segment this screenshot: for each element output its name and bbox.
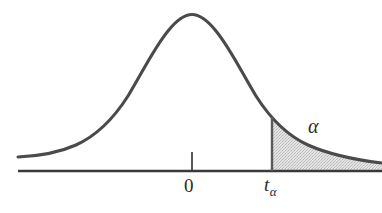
critical-value-label: tα xyxy=(264,175,277,198)
origin-label: 0 xyxy=(184,176,194,195)
t-distribution-figure: 0 tα α xyxy=(0,0,382,213)
tail-area-label: α xyxy=(308,116,319,136)
critical-value-symbol: t xyxy=(264,174,269,195)
critical-value-subscript: α xyxy=(270,184,277,199)
bell-curve xyxy=(18,15,382,164)
